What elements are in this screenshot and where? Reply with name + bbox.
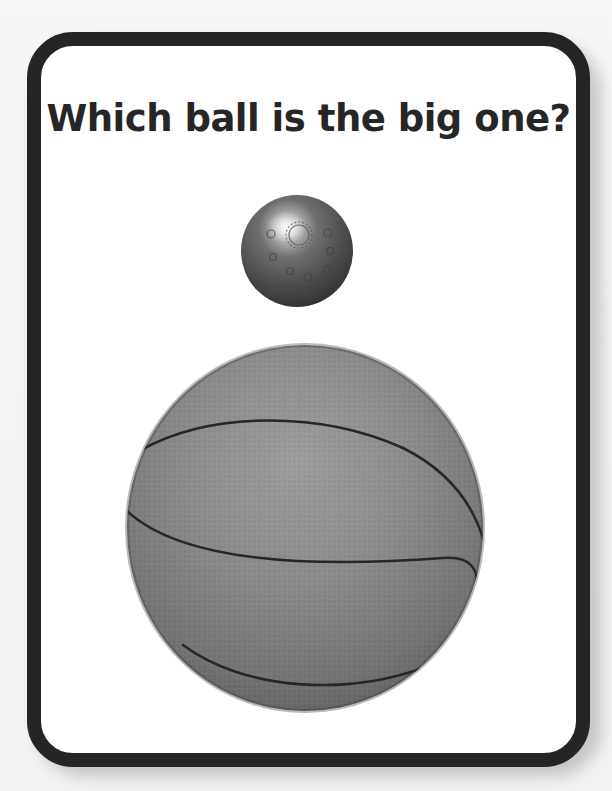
question-card: Which ball is the big one? — [27, 32, 590, 767]
basketball-image[interactable] — [123, 340, 487, 714]
question-title: Which ball is the big one? — [41, 97, 576, 141]
small-ball-image[interactable] — [238, 191, 356, 309]
